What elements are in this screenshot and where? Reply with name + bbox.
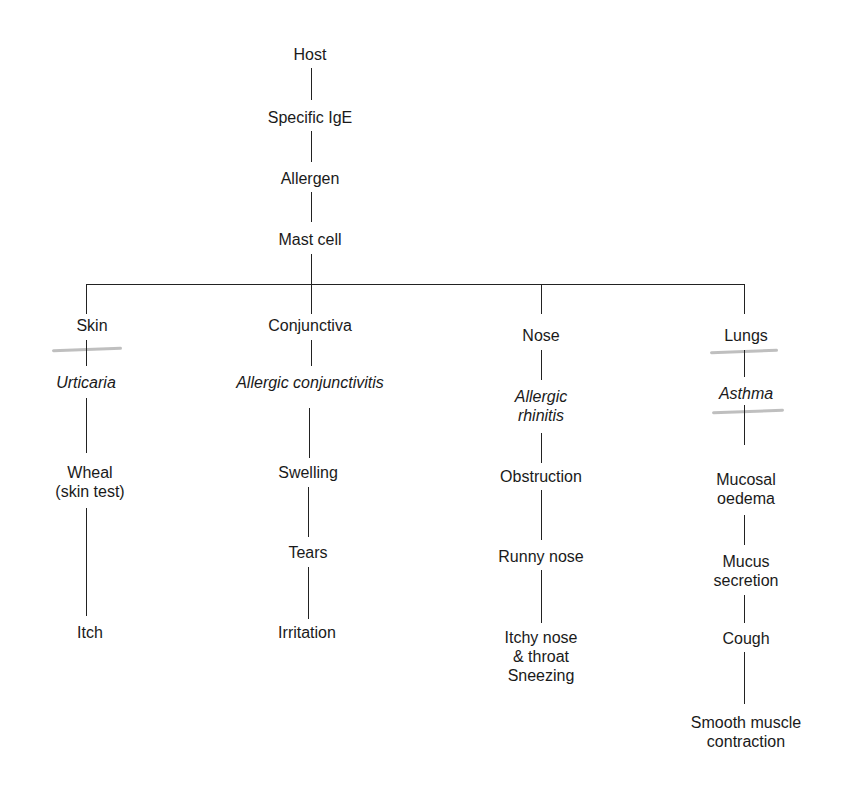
connector-line	[308, 567, 309, 619]
mucus-line1: Mucus	[722, 553, 769, 570]
itchy-line2: & throat	[513, 648, 569, 665]
node-mucus-secretion: Mucussecretion	[714, 552, 779, 590]
node-cough: Cough	[722, 629, 769, 648]
node-mucosal-oedema: Mucosaloedema	[716, 470, 776, 508]
node-smooth-muscle-contraction: Smooth musclecontraction	[691, 713, 801, 751]
connector-line	[309, 408, 310, 458]
node-obstruction: Obstruction	[500, 467, 582, 486]
oedema-line2: oedema	[717, 490, 775, 507]
node-tears: Tears	[288, 543, 327, 562]
node-wheal: Wheal(skin test)	[55, 463, 124, 501]
node-allergen: Allergen	[281, 169, 340, 188]
connector-line	[311, 192, 312, 222]
connector-line	[86, 508, 87, 616]
connector-line	[541, 350, 542, 380]
node-itch: Itch	[77, 623, 103, 642]
connector-line	[311, 68, 312, 100]
connector-line	[311, 284, 312, 314]
scan-smudge	[712, 409, 784, 415]
connector-line	[744, 284, 745, 314]
node-runny-nose: Runny nose	[498, 547, 583, 566]
oedema-line1: Mucosal	[716, 471, 776, 488]
connector-line	[541, 490, 542, 540]
connector-line	[311, 131, 312, 162]
node-irritation: Irritation	[278, 623, 336, 642]
itchy-line3: Sneezing	[508, 667, 575, 684]
node-urticaria: Urticaria	[56, 373, 116, 392]
connector-line	[308, 487, 309, 537]
connector-line	[86, 398, 87, 453]
connector-line	[744, 595, 745, 623]
connector-line	[744, 652, 745, 704]
connector-line	[86, 284, 87, 314]
rhinitis-line2: rhinitis	[518, 407, 564, 424]
node-specific-ige: Specific IgE	[268, 108, 352, 127]
connector-line	[744, 350, 745, 377]
connector-line	[541, 433, 542, 463]
branch-bar	[86, 284, 745, 285]
connector-line	[311, 254, 312, 285]
wheal-line2: (skin test)	[55, 483, 124, 500]
node-allergic-conjunctivitis: Allergic conjunctivitis	[236, 373, 384, 392]
node-itchy-nose-throat-sneezing: Itchy nose& throatSneezing	[505, 628, 578, 685]
node-asthma: Asthma	[719, 384, 773, 403]
connector-line	[744, 405, 745, 445]
node-nose: Nose	[522, 326, 559, 345]
node-allergic-rhinitis: Allergicrhinitis	[515, 387, 567, 425]
rhinitis-line1: Allergic	[515, 388, 567, 405]
smooth-line1: Smooth muscle	[691, 714, 801, 731]
mucus-line2: secretion	[714, 572, 779, 589]
itchy-line1: Itchy nose	[505, 629, 578, 646]
node-conjunctiva: Conjunctiva	[268, 316, 352, 335]
wheal-line1: Wheal	[67, 464, 112, 481]
connector-line	[541, 570, 542, 623]
connector-line	[541, 284, 542, 314]
connector-line	[744, 515, 745, 545]
node-lungs: Lungs	[724, 326, 768, 345]
connector-line	[86, 340, 87, 366]
node-mast-cell: Mast cell	[278, 230, 341, 249]
node-host: Host	[294, 45, 327, 64]
smooth-line2: contraction	[707, 733, 785, 750]
node-swelling: Swelling	[278, 463, 338, 482]
connector-line	[311, 340, 312, 366]
node-skin: Skin	[76, 316, 107, 335]
